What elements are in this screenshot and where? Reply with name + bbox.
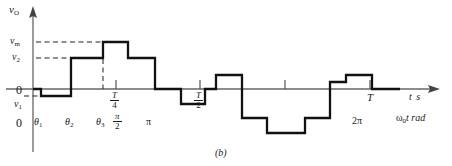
y-tick-label-v2: v2 [12,52,20,64]
y-axis [29,6,37,152]
y-tick-label-vm: vm [10,36,20,48]
waveform-svg [0,0,452,166]
x-axis-unit-time: t s [409,92,421,102]
y-axis-label-sub: O [14,9,19,17]
x-tick-label-pi-over-2: π2 [113,112,122,132]
y-tick-label-zero-lower: 0 [16,117,22,129]
x-tick-label-T: T [367,92,373,103]
x-tick-label-theta1: θ1 [34,117,42,129]
x-tick-label-T-over-4: T4 [110,91,119,111]
x-tick-label-theta2: θ2 [65,117,73,129]
figure-caption: (b) [215,148,227,158]
x-axis-unit-angle: ω0t rad [396,113,425,125]
y-axis-label: vO [9,4,19,17]
y-tick-label-zero-upper: 0 [16,84,22,96]
waveform-figure: vO vm v2 0 v1 0 θ1 θ2 θ3 π2 π 2π T4 T2 T… [0,0,452,166]
x-tick-label-pi: π [146,117,151,127]
x-tick-label-T-over-2: T2 [194,91,203,111]
y-tick-label-v1: v1 [14,99,22,111]
stepped-waveform-path [33,42,400,133]
x-tick-label-theta3: θ3 [96,117,104,129]
x-tick-label-two-pi: 2π [352,116,362,126]
